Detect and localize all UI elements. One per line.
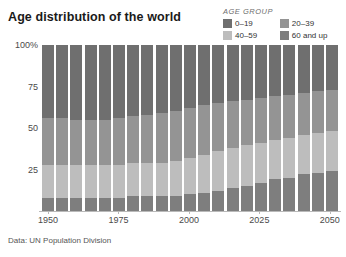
legend-swatch-icon (280, 19, 289, 28)
bar-segment (99, 120, 111, 165)
bar-segment (283, 95, 295, 138)
bar-segment (56, 45, 68, 118)
bar-segment (326, 131, 338, 171)
bar-segment (56, 198, 68, 211)
bar-segment (85, 165, 97, 198)
legend-item[interactable]: 0–19 (223, 19, 273, 28)
bar-segment (127, 196, 139, 211)
bar-column[interactable] (269, 45, 281, 211)
bar-segment (170, 111, 182, 161)
bar-segment (255, 183, 267, 211)
bar-segment (113, 165, 125, 198)
bar-column[interactable] (99, 45, 111, 211)
bar-segment (156, 45, 168, 113)
stacked-bars (42, 45, 338, 211)
bar-segment (312, 173, 324, 211)
bar-segment (255, 143, 267, 183)
bar-column[interactable] (227, 45, 239, 211)
bar-column[interactable] (298, 45, 310, 211)
bar-column[interactable] (156, 45, 168, 211)
bar-segment (283, 45, 295, 95)
bar-segment (170, 196, 182, 211)
bar-segment (141, 45, 153, 115)
bar-segment (141, 115, 153, 163)
bar-segment (298, 135, 310, 175)
bar-segment (283, 178, 295, 211)
bar-segment (198, 45, 210, 105)
bar-segment (127, 116, 139, 162)
bar-column[interactable] (184, 45, 196, 211)
bar-segment (241, 100, 253, 145)
bar-segment (198, 155, 210, 193)
bar-segment (255, 45, 267, 98)
legend-item[interactable]: 40–59 (223, 31, 273, 40)
y-axis-tick-label: 50 (28, 123, 38, 133)
bar-segment (127, 163, 139, 196)
bar-column[interactable] (42, 45, 54, 211)
bar-segment (212, 191, 224, 211)
bar-segment (56, 165, 68, 198)
bar-column[interactable] (85, 45, 97, 211)
legend-swatch-icon (223, 31, 232, 40)
legend-item-label: 0–19 (235, 19, 253, 28)
bar-segment (227, 101, 239, 147)
x-axis-tick-mark (118, 211, 119, 214)
bar-segment (99, 45, 111, 120)
legend-item-label: 40–59 (235, 31, 257, 40)
bar-segment (70, 45, 82, 120)
bar-segment (198, 105, 210, 155)
bar-segment (184, 158, 196, 195)
y-axis-labels: 255075100% (0, 0, 38, 257)
bar-segment (269, 140, 281, 180)
bar-segment (156, 163, 168, 196)
bar-segment (227, 45, 239, 101)
x-axis-tick-label: 1975 (108, 215, 128, 225)
bar-column[interactable] (241, 45, 253, 211)
y-axis-tick-label: 75 (28, 82, 38, 92)
bar-segment (312, 45, 324, 91)
bar-segment (113, 198, 125, 211)
bar-segment (255, 98, 267, 143)
bar-column[interactable] (170, 45, 182, 211)
bar-segment (269, 179, 281, 211)
bar-column[interactable] (255, 45, 267, 211)
legend-item-label: 60 and up (292, 31, 328, 40)
bar-column[interactable] (312, 45, 324, 211)
bar-column[interactable] (127, 45, 139, 211)
bar-segment (141, 163, 153, 196)
x-axis-tick-mark (259, 211, 260, 214)
bar-segment (70, 120, 82, 165)
bar-segment (298, 45, 310, 93)
x-axis-tick-mark (48, 211, 49, 214)
legend-item-label: 20–39 (292, 19, 314, 28)
bar-segment (113, 118, 125, 164)
bar-segment (85, 120, 97, 165)
x-axis-tick-label: 2000 (179, 215, 199, 225)
legend-item[interactable]: 20–39 (280, 19, 343, 28)
bar-segment (312, 91, 324, 133)
bar-column[interactable] (198, 45, 210, 211)
bar-segment (141, 196, 153, 211)
x-axis-tick-label: 1950 (38, 215, 58, 225)
source-note: Data: UN Population Division (8, 236, 111, 245)
bar-segment (212, 45, 224, 103)
legend-swatch-icon (223, 19, 232, 28)
x-axis-line (39, 211, 341, 212)
bar-segment (99, 165, 111, 198)
bar-column[interactable] (113, 45, 125, 211)
bar-column[interactable] (212, 45, 224, 211)
legend-item[interactable]: 60 and up (280, 31, 343, 40)
bar-segment (198, 193, 210, 211)
x-axis-tick-label: 2025 (249, 215, 269, 225)
bar-segment (70, 165, 82, 198)
bar-column[interactable] (326, 45, 338, 211)
bar-column[interactable] (70, 45, 82, 211)
bar-column[interactable] (56, 45, 68, 211)
bar-segment (156, 196, 168, 211)
bar-segment (283, 138, 295, 178)
bar-segment (184, 45, 196, 108)
y-axis-tick-label: 100% (15, 40, 38, 50)
bar-column[interactable] (141, 45, 153, 211)
bar-column[interactable] (283, 45, 295, 211)
bar-segment (56, 118, 68, 164)
